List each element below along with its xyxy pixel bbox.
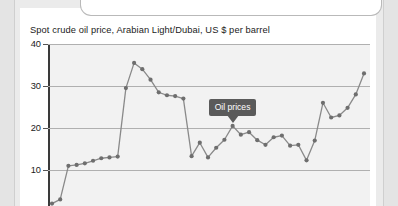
data-point xyxy=(132,61,136,65)
chart-title: Spot crude oil price, Arabian Light/Duba… xyxy=(30,25,270,35)
data-point xyxy=(58,197,62,201)
data-point xyxy=(304,158,308,162)
data-point xyxy=(165,93,169,97)
right-gutter-divider xyxy=(383,0,384,206)
data-point xyxy=(247,130,251,134)
data-point xyxy=(313,139,317,143)
panel-above-divider xyxy=(80,0,382,16)
oil-prices-annotation-pointer xyxy=(227,115,239,123)
data-point xyxy=(354,92,358,96)
data-point xyxy=(231,124,235,128)
data-point xyxy=(272,135,276,139)
y-axis-label-30: 30 xyxy=(31,81,41,91)
data-point xyxy=(321,101,325,105)
data-point xyxy=(329,115,333,119)
data-point xyxy=(107,155,111,159)
data-point xyxy=(198,141,202,145)
left-gutter xyxy=(0,0,14,206)
data-point xyxy=(337,113,341,117)
data-point xyxy=(280,133,284,137)
data-point xyxy=(75,163,79,167)
data-point xyxy=(222,138,226,142)
data-point xyxy=(91,159,95,163)
left-gutter-divider xyxy=(14,0,15,206)
data-point xyxy=(140,67,144,71)
oil-prices-annotation: Oil prices xyxy=(209,99,257,116)
data-point xyxy=(148,78,152,82)
data-point xyxy=(288,144,292,148)
data-point xyxy=(66,164,70,168)
y-axis-label-20: 20 xyxy=(31,123,41,133)
chart-plot-area: 10203040 Oil prices xyxy=(48,44,370,206)
data-point xyxy=(124,86,128,90)
data-point xyxy=(263,143,267,147)
data-point xyxy=(239,133,243,137)
data-point xyxy=(173,94,177,98)
data-point xyxy=(116,154,120,158)
right-gutter xyxy=(384,0,398,206)
series-oil-prices xyxy=(48,44,370,206)
data-point xyxy=(157,90,161,94)
y-axis-label-10: 10 xyxy=(31,165,41,175)
data-point xyxy=(296,143,300,147)
chart-card: Spot crude oil price, Arabian Light/Duba… xyxy=(20,8,376,206)
data-point xyxy=(214,146,218,150)
data-point xyxy=(255,138,259,142)
data-point xyxy=(206,155,210,159)
data-point xyxy=(345,106,349,110)
y-axis-label-40: 40 xyxy=(31,39,41,49)
data-point xyxy=(99,156,103,160)
data-point xyxy=(83,161,87,165)
data-point xyxy=(189,154,193,158)
data-point xyxy=(181,97,185,101)
data-point xyxy=(362,71,366,75)
data-point xyxy=(50,202,54,206)
